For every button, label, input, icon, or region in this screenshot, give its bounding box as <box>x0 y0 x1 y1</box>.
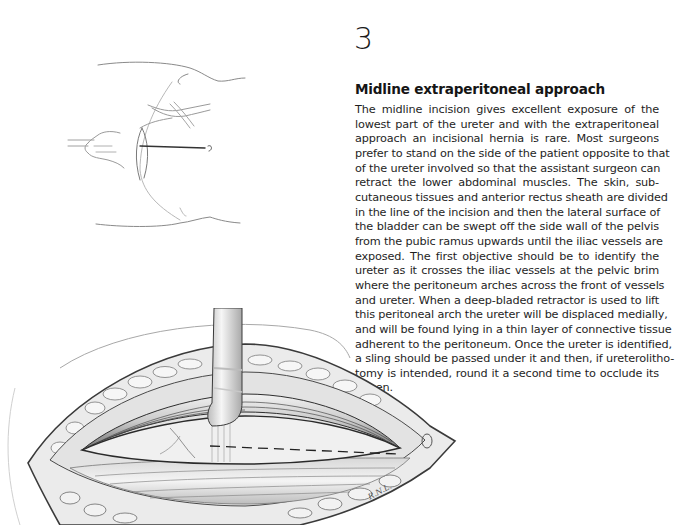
book-page: 3 Midline extraperitoneal approach The m… <box>0 0 688 525</box>
operative-view-figure <box>0 308 470 525</box>
patient-outline-illustration <box>60 40 320 270</box>
section-heading: Midline extraperitoneal approach <box>355 80 605 98</box>
body-line: exposed. The first objective should be t… <box>355 250 659 265</box>
body-line: and ureter. When a deep-bladed retractor… <box>355 294 659 309</box>
body-line: in the line of the incision and then the… <box>355 206 659 221</box>
body-line: The midline incision gives excellent exp… <box>355 103 659 118</box>
body-line: from the pubic ramus upwards until the i… <box>355 235 659 250</box>
body-line: ureter as it crosses the iliac vessels a… <box>355 264 659 279</box>
chapter-number: 3 <box>354 22 373 56</box>
operative-illustration <box>0 308 470 525</box>
body-line: prefer to stand on the side of the patie… <box>355 147 659 162</box>
body-line: approach an incisional hernia is rare. M… <box>355 132 659 147</box>
body-line: lowest part of the ureter and with the e… <box>355 118 659 133</box>
body-line: retract the lower abdominal muscles. The… <box>355 176 659 191</box>
orientation-sketch-figure <box>60 40 320 270</box>
body-line: where the peritoneum arches across the f… <box>355 279 659 294</box>
body-line: cutaneous tissues and anterior rectus sh… <box>355 191 659 206</box>
body-line: the bladder can be swept off the side wa… <box>355 220 659 235</box>
body-line: of the ureter involved so that the assis… <box>355 162 659 177</box>
